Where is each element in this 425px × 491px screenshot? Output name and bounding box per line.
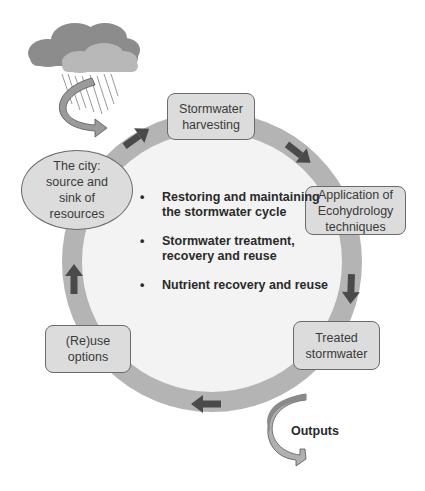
bullet-icon: •	[140, 190, 144, 205]
node-label: Treated	[306, 330, 368, 346]
bullet-item: • Restoring and maintaining the stormwat…	[140, 190, 340, 220]
bullet-text: Nutrient recovery and reuse	[162, 278, 328, 292]
center-bullet-list: • Restoring and maintaining the stormwat…	[140, 190, 340, 307]
bullet-text: Restoring and maintaining the stormwater…	[162, 190, 320, 219]
node-city-source-sink: The city: source and sink of resources	[21, 150, 133, 230]
node-label: Stormwater	[179, 101, 243, 117]
node-label: (Re)use	[66, 333, 110, 349]
node-reuse-options: (Re)use options	[45, 325, 131, 373]
rain-cloud-icon	[28, 23, 140, 114]
node-stormwater-harvesting: Stormwater harvesting	[167, 93, 255, 140]
bullet-icon: •	[140, 234, 144, 249]
node-label: The city:	[46, 158, 108, 174]
bullet-item: • Stormwater treatment, recovery and reu…	[140, 234, 340, 264]
node-treated-stormwater: Treated stormwater	[293, 321, 380, 370]
node-label: options	[66, 349, 110, 365]
bullet-text: Stormwater treatment, recovery and reuse	[162, 234, 295, 263]
node-label: stormwater	[306, 346, 368, 362]
node-label: harvesting	[179, 117, 243, 133]
node-label: source and	[46, 174, 108, 190]
node-label: sink of	[46, 190, 108, 206]
outputs-label: Outputs	[291, 424, 339, 438]
bullet-item: • Nutrient recovery and reuse	[140, 278, 340, 293]
bullet-icon: •	[140, 278, 144, 293]
node-label: resources	[46, 206, 108, 222]
